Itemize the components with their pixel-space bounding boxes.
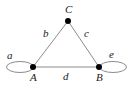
vertex-label-b: B	[96, 72, 103, 83]
vertex-b	[96, 64, 102, 70]
vertex-c	[65, 18, 71, 24]
edge-b	[33, 21, 68, 67]
vertex-a	[30, 64, 36, 70]
edge-label-b: b	[43, 28, 49, 39]
vertex-group	[30, 18, 102, 70]
vertex-label-a: A	[30, 72, 37, 83]
vertex-label-c: C	[65, 4, 72, 15]
graph-diagram: A B C b c d a e	[0, 0, 135, 90]
self-loop-e	[100, 62, 127, 73]
loop-label-e: e	[109, 49, 114, 60]
edge-label-c: c	[84, 28, 89, 39]
edge-label-d: d	[63, 71, 69, 82]
loop-label-a: a	[7, 50, 13, 61]
